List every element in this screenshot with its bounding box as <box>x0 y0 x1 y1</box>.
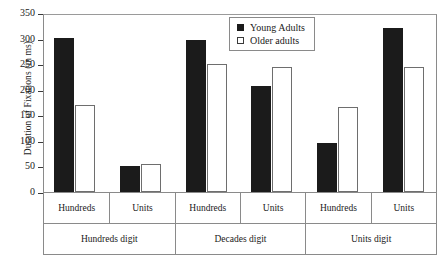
open-square-icon <box>237 37 244 44</box>
bar-older-adults <box>272 67 292 192</box>
bar-young-adults <box>186 40 206 192</box>
y-axis-tick-label: 100 <box>20 135 35 146</box>
bar-older-adults <box>207 64 227 192</box>
y-axis-ticks: 050100150200250300350 <box>0 0 43 256</box>
legend-item-label: Young Adults <box>250 22 305 33</box>
y-axis-tick-label: 250 <box>20 58 35 69</box>
x-axis-level-2: Hundreds digitDecades digitUnits digit <box>43 224 437 255</box>
x-axis-group-label: Units digit <box>305 224 436 254</box>
bar-older-adults <box>338 107 358 192</box>
legend-item: Older adults <box>237 34 305 47</box>
x-axis-category-label: Units <box>109 193 174 223</box>
y-axis-tick-label: 50 <box>25 160 35 171</box>
bar-young-adults <box>251 86 271 192</box>
bar-chart: Duration of Fixations (in ms) 0501001502… <box>0 0 444 256</box>
x-axis-category-label: Hundreds <box>175 193 240 223</box>
bar-young-adults <box>54 38 74 192</box>
bar-group <box>307 15 373 192</box>
x-axis-group-label: Hundreds digit <box>44 224 175 254</box>
bar-group <box>110 15 176 192</box>
x-axis-category-label: Hundreds <box>305 193 370 223</box>
y-axis-tick-label: 150 <box>20 109 35 120</box>
x-axis-category-label: Hundreds <box>44 193 109 223</box>
x-axis-category-label: Units <box>371 193 436 223</box>
bar-older-adults <box>141 164 161 192</box>
legend-item-label: Older adults <box>250 35 299 46</box>
x-axis-category-label: Units <box>240 193 305 223</box>
bar-group <box>372 15 437 192</box>
x-axis-level-1: HundredsUnitsHundredsUnitsHundredsUnits <box>43 193 437 224</box>
legend-item: Young Adults <box>237 21 305 34</box>
chart-legend: Young AdultsOlder adults <box>229 17 315 51</box>
y-axis-tick-label: 350 <box>20 7 35 18</box>
bar-older-adults <box>404 67 424 192</box>
filled-square-icon <box>237 24 244 31</box>
bar-group <box>44 15 110 192</box>
y-axis-tick-label: 200 <box>20 84 35 95</box>
y-axis-tick-label: 0 <box>30 186 35 197</box>
bar-young-adults <box>317 143 337 192</box>
bar-older-adults <box>75 105 95 192</box>
bar-young-adults <box>120 166 140 192</box>
x-axis-group-label: Decades digit <box>175 224 306 254</box>
bar-young-adults <box>383 28 403 192</box>
y-axis-tick-label: 300 <box>20 33 35 44</box>
